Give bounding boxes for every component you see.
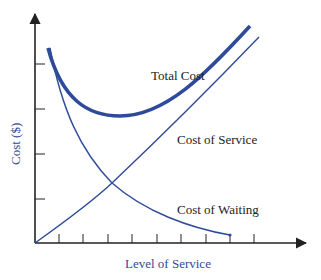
x-axis-label: Level of Service xyxy=(125,256,211,271)
cost-of-waiting-label: Cost of Waiting xyxy=(177,202,259,217)
total-cost-curve xyxy=(48,26,250,116)
cost-of-waiting-endpoint xyxy=(228,233,231,236)
total-cost-label: Total Cost xyxy=(151,68,205,83)
cost-of-service-label: Cost of Service xyxy=(177,132,257,147)
y-ticks xyxy=(35,64,45,199)
y-axis-label: Cost ($) xyxy=(8,123,23,165)
x-ticks xyxy=(59,234,254,243)
cost-tradeoff-chart: Total Cost Cost of Service Cost of Waiti… xyxy=(0,0,321,280)
